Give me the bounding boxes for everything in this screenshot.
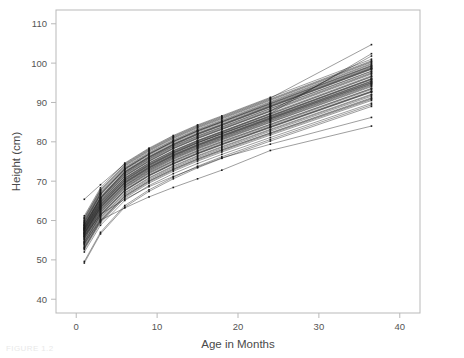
data-point-marker	[221, 116, 223, 118]
data-point-marker	[84, 229, 86, 231]
data-point-marker	[270, 99, 272, 101]
data-point-marker	[221, 139, 223, 141]
data-point-marker	[197, 178, 199, 180]
data-point-marker	[371, 53, 373, 55]
data-point-marker	[148, 174, 150, 176]
data-point-marker	[371, 71, 373, 73]
data-point-marker	[197, 134, 199, 136]
data-point-marker	[124, 182, 126, 184]
data-point-marker	[197, 155, 199, 157]
data-point-marker	[197, 141, 199, 143]
data-point-marker	[371, 117, 373, 119]
data-point-marker	[371, 98, 373, 100]
data-point-marker	[371, 95, 373, 97]
data-point-marker	[100, 184, 102, 186]
data-point-marker	[84, 198, 86, 200]
data-point-marker	[221, 125, 223, 127]
data-point-marker	[100, 211, 102, 213]
growth-chart-figure: 010203040Age in Months405060708090100110…	[0, 0, 464, 358]
data-point-marker	[221, 157, 223, 159]
data-point-marker	[371, 106, 373, 108]
x-tick-label: 0	[74, 321, 79, 332]
x-tick-label: 10	[152, 321, 163, 332]
data-point-marker	[148, 153, 150, 155]
data-point-marker	[371, 85, 373, 87]
data-point-marker	[100, 233, 102, 235]
data-point-marker	[172, 165, 174, 167]
y-tick-label: 60	[36, 215, 47, 226]
data-point-marker	[124, 194, 126, 196]
data-point-marker	[221, 169, 223, 171]
data-point-marker	[148, 191, 150, 193]
subject-trajectory	[84, 85, 371, 237]
data-point-marker	[172, 176, 174, 178]
x-tick-label: 30	[314, 321, 325, 332]
data-point-marker	[148, 189, 150, 191]
data-point-marker	[270, 140, 272, 142]
subject-trajectory	[84, 126, 371, 243]
data-point-marker	[100, 217, 102, 219]
data-point-marker	[197, 140, 199, 142]
y-tick-label: 70	[36, 176, 47, 187]
data-point-marker	[270, 115, 272, 117]
x-tick-label: 20	[233, 321, 244, 332]
data-point-marker	[124, 187, 126, 189]
y-tick-label: 50	[36, 254, 47, 265]
data-point-marker	[197, 125, 199, 127]
data-point-marker	[148, 148, 150, 150]
data-point-marker	[148, 150, 150, 152]
data-point-marker	[221, 143, 223, 145]
data-point-marker	[371, 81, 373, 83]
data-point-marker	[270, 130, 272, 132]
data-series-group	[84, 44, 373, 264]
data-point-marker	[84, 262, 86, 264]
data-point-marker	[172, 187, 174, 189]
data-point-marker	[100, 187, 102, 189]
data-point-marker	[148, 180, 150, 182]
data-point-marker	[270, 137, 272, 139]
data-point-marker	[124, 205, 126, 207]
data-point-marker	[84, 238, 86, 240]
y-tick-label: 100	[31, 58, 47, 69]
data-point-marker	[221, 146, 223, 148]
data-point-marker	[124, 192, 126, 194]
data-point-marker	[172, 146, 174, 148]
data-point-marker	[100, 219, 102, 221]
y-tick-label: 80	[36, 136, 47, 147]
data-point-marker	[84, 217, 86, 219]
data-point-marker	[124, 177, 126, 179]
data-point-marker	[124, 175, 126, 177]
data-point-marker	[148, 164, 150, 166]
data-point-marker	[172, 137, 174, 139]
data-point-marker	[371, 93, 373, 95]
y-axis: 405060708090100110	[31, 18, 56, 304]
spaghetti-plot-svg: 010203040Age in Months405060708090100110…	[0, 0, 464, 358]
data-point-marker	[148, 186, 150, 188]
data-point-marker	[124, 207, 126, 209]
data-point-marker	[371, 65, 373, 67]
data-point-marker	[270, 113, 272, 115]
data-point-marker	[371, 76, 373, 78]
data-point-marker	[197, 126, 199, 128]
data-point-marker	[148, 162, 150, 164]
data-point-marker	[371, 73, 373, 75]
data-point-marker	[270, 128, 272, 130]
data-point-marker	[197, 166, 199, 168]
data-point-marker	[172, 173, 174, 175]
data-point-marker	[124, 179, 126, 181]
data-point-marker	[221, 135, 223, 137]
figure-caption: FIGURE 1.2	[6, 344, 54, 356]
data-point-marker	[197, 157, 199, 159]
data-point-marker	[172, 167, 174, 169]
data-point-marker	[148, 160, 150, 162]
data-point-marker	[124, 163, 126, 165]
data-point-marker	[270, 106, 272, 108]
data-point-marker	[172, 178, 174, 180]
data-point-marker	[221, 126, 223, 128]
data-point-marker	[371, 88, 373, 90]
data-point-marker	[124, 172, 126, 174]
data-point-marker	[197, 148, 199, 150]
data-point-marker	[270, 139, 272, 141]
data-point-marker	[197, 158, 199, 160]
data-point-marker	[221, 121, 223, 123]
